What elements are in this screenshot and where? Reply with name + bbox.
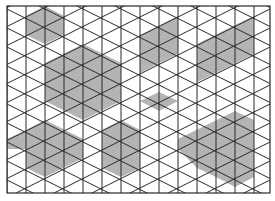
isometric-grid-svg <box>0 0 275 201</box>
grid-line <box>7 199 270 201</box>
triangle-grid-diagram <box>0 0 275 201</box>
top-right-shape <box>197 16 254 82</box>
grid-line <box>7 199 270 201</box>
